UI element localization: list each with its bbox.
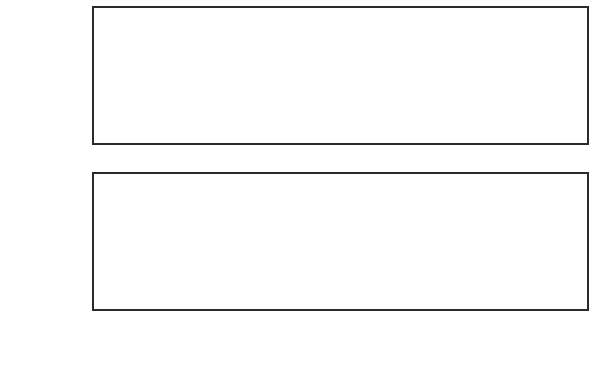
figure [0,0,602,375]
plot-area-top [94,8,587,143]
plot-area-bottom [94,174,587,309]
chart-panel-top [92,6,589,145]
chart-panel-bottom [92,172,589,311]
